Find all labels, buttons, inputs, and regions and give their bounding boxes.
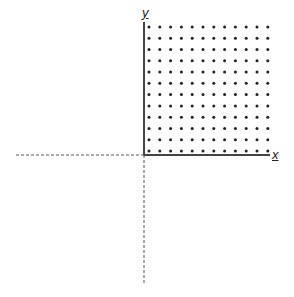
lattice-dot [266, 71, 269, 74]
lattice-dot [266, 138, 269, 141]
lattice-dot [223, 37, 226, 40]
lattice-dot [191, 138, 194, 141]
lattice-dot [256, 71, 259, 74]
lattice-dot [202, 82, 205, 85]
lattice-dot [191, 127, 194, 130]
lattice-dot [256, 37, 259, 40]
lattice-dot [223, 26, 226, 29]
lattice-dot [202, 104, 205, 107]
lattice-dot [256, 93, 259, 96]
lattice-dot [234, 59, 237, 62]
lattice-dot [148, 127, 151, 130]
lattice-dot [234, 104, 237, 107]
lattice-dot [191, 48, 194, 51]
lattice-dot [266, 127, 269, 130]
lattice-dot [266, 26, 269, 29]
lattice-dot [266, 82, 269, 85]
lattice-dot [212, 82, 215, 85]
lattice-dot [169, 116, 172, 119]
lattice-dot [169, 48, 172, 51]
lattice-dot [266, 104, 269, 107]
lattice-dot [169, 104, 172, 107]
lattice-dot [148, 104, 151, 107]
lattice-dot [266, 150, 269, 153]
lattice-dot [223, 138, 226, 141]
lattice-dot [212, 59, 215, 62]
lattice-dot [256, 138, 259, 141]
lattice-dot [212, 37, 215, 40]
lattice-dot [212, 48, 215, 51]
lattice-dot [245, 138, 248, 141]
lattice-dot [234, 37, 237, 40]
lattice-dot [148, 138, 151, 141]
lattice-dot [158, 48, 161, 51]
lattice-dot [234, 127, 237, 130]
lattice-dot [180, 59, 183, 62]
lattice-dot [266, 48, 269, 51]
lattice-dot [202, 48, 205, 51]
lattice-dot [202, 138, 205, 141]
lattice-dot [191, 71, 194, 74]
lattice-dot [223, 93, 226, 96]
lattice-dot [158, 116, 161, 119]
lattice-dot [169, 138, 172, 141]
lattice-dot [202, 37, 205, 40]
lattice-dot [148, 48, 151, 51]
lattice-dot [256, 116, 259, 119]
lattice-dot [158, 93, 161, 96]
lattice-dot [158, 59, 161, 62]
lattice-dot [223, 59, 226, 62]
lattice-dot [234, 82, 237, 85]
lattice-dot [148, 37, 151, 40]
lattice-dot [212, 104, 215, 107]
lattice-dot [245, 127, 248, 130]
lattice-dot [212, 93, 215, 96]
lattice-dot [180, 26, 183, 29]
lattice-dot [169, 127, 172, 130]
lattice-dot [180, 37, 183, 40]
lattice-dot [223, 150, 226, 153]
lattice-dot [169, 59, 172, 62]
lattice-dot [148, 116, 151, 119]
lattice-dot [202, 59, 205, 62]
lattice-dot [234, 150, 237, 153]
lattice-dot [169, 150, 172, 153]
lattice-dot [266, 93, 269, 96]
lattice-dot [202, 93, 205, 96]
x-axis-label: x [272, 148, 279, 161]
lattice-dot [180, 71, 183, 74]
lattice-dot [148, 150, 151, 153]
lattice-dot [256, 82, 259, 85]
lattice-dot [148, 71, 151, 74]
lattice-dot [234, 116, 237, 119]
lattice-dot [180, 93, 183, 96]
lattice-dot [266, 59, 269, 62]
lattice-dot [191, 116, 194, 119]
lattice-dot [245, 48, 248, 51]
lattice-dot [180, 127, 183, 130]
lattice-dot [180, 48, 183, 51]
lattice-dot [158, 71, 161, 74]
lattice-dot [245, 116, 248, 119]
lattice-dot [158, 26, 161, 29]
lattice-dot [245, 104, 248, 107]
lattice-dot [256, 150, 259, 153]
lattice-dot [148, 82, 151, 85]
lattice-dot [180, 138, 183, 141]
lattice-dot [245, 71, 248, 74]
lattice-dot [256, 104, 259, 107]
lattice-dot [169, 93, 172, 96]
lattice-dot [191, 37, 194, 40]
lattice-dot [245, 150, 248, 153]
lattice-dot [158, 127, 161, 130]
lattice-dot [245, 59, 248, 62]
lattice-dot [180, 104, 183, 107]
lattice-dot [191, 104, 194, 107]
lattice-dot [158, 150, 161, 153]
lattice-dot [191, 150, 194, 153]
lattice-dot [245, 82, 248, 85]
lattice-dot [256, 48, 259, 51]
lattice-dot [234, 138, 237, 141]
lattice-dot [158, 138, 161, 141]
lattice-dot [212, 116, 215, 119]
